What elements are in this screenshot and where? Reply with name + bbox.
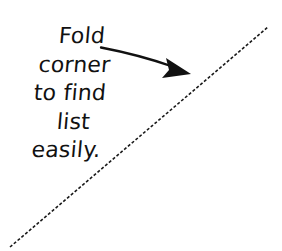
- note-line-2: corner: [5, 51, 143, 80]
- arrowhead-icon: [162, 58, 191, 78]
- note-line-4: list: [8, 108, 138, 137]
- fold-instruction-note: Fold corner to find list easily.: [2, 22, 146, 165]
- note-line-5: easily.: [0, 136, 136, 165]
- note-line-3: to find: [0, 79, 141, 108]
- note-line-1: Fold: [18, 22, 146, 51]
- fold-corner-annotation-canvas: Fold corner to find list easily.: [0, 0, 282, 251]
